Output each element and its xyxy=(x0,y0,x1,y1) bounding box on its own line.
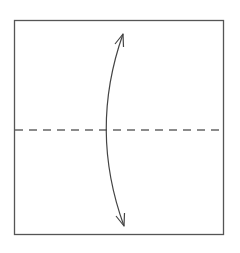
paper-square xyxy=(15,21,224,235)
diagram-canvas xyxy=(0,0,240,253)
